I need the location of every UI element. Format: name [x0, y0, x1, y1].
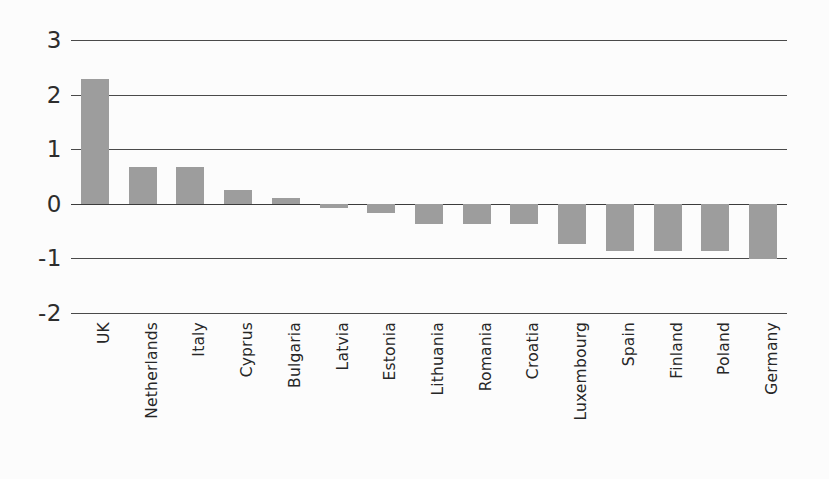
plot-area	[71, 40, 787, 313]
bar	[463, 204, 491, 224]
x-tick-label: Lithuania	[429, 322, 447, 396]
x-tick: UK	[71, 316, 119, 471]
x-tick: Latvia	[310, 316, 358, 471]
gridline--1	[71, 258, 787, 259]
x-tick: Finland	[644, 316, 692, 471]
bar	[81, 79, 109, 203]
x-tick: Romania	[453, 316, 501, 471]
bar	[510, 204, 538, 224]
y-axis-tick-labels: 3210-1-2	[8, 40, 62, 313]
bar	[701, 204, 729, 252]
y-tick-label: -1	[18, 247, 62, 270]
x-tick: Cyprus	[214, 316, 262, 471]
bar	[606, 204, 634, 252]
y-tick-label: 0	[18, 192, 62, 215]
x-tick: Germany	[739, 316, 787, 471]
x-tick: Lithuania	[405, 316, 453, 471]
bar	[224, 190, 252, 204]
bar	[749, 204, 777, 260]
x-tick-label: Luxembourg	[572, 322, 590, 421]
x-tick-label: Finland	[668, 322, 686, 379]
x-tick: Poland	[692, 316, 740, 471]
bar	[320, 204, 348, 208]
y-tick-label: 1	[18, 138, 62, 161]
gridline-1	[71, 149, 787, 150]
gridline-3	[71, 40, 787, 41]
x-tick-label: Poland	[715, 322, 733, 375]
x-tick-label: Cyprus	[238, 322, 256, 377]
x-tick-label: Spain	[620, 322, 638, 366]
x-tick: Spain	[596, 316, 644, 471]
bar	[654, 204, 682, 252]
x-axis-tick-labels: UKNetherlandsItalyCyprusBulgariaLatviaEs…	[71, 316, 787, 476]
x-tick-label: Latvia	[334, 322, 352, 370]
bar	[272, 198, 300, 203]
x-tick-label: Croatia	[524, 322, 542, 379]
bar	[367, 204, 395, 213]
x-tick-label: Estonia	[381, 322, 399, 380]
x-tick: Estonia	[357, 316, 405, 471]
bar-chart-figure: 3210-1-2 UKNetherlandsItalyCyprusBulgari…	[0, 0, 829, 479]
x-tick: Italy	[166, 316, 214, 471]
gridline-2	[71, 95, 787, 96]
bar	[558, 204, 586, 244]
bar	[129, 167, 157, 204]
y-tick-label: 2	[18, 83, 62, 106]
x-tick-label: Bulgaria	[286, 322, 304, 388]
x-tick-label: Romania	[477, 322, 495, 391]
x-tick: Croatia	[501, 316, 549, 471]
x-tick-label: Netherlands	[143, 322, 161, 419]
x-tick-label: UK	[95, 322, 113, 344]
x-tick: Bulgaria	[262, 316, 310, 471]
x-tick-label: Germany	[763, 322, 781, 395]
x-tick-label: Italy	[190, 322, 208, 357]
gridline--2	[71, 313, 787, 314]
bar	[176, 167, 204, 204]
x-tick: Netherlands	[119, 316, 167, 471]
x-tick: Luxembourg	[548, 316, 596, 471]
y-tick-label: 3	[18, 29, 62, 52]
y-tick-label: -2	[18, 302, 62, 325]
bar	[415, 204, 443, 224]
